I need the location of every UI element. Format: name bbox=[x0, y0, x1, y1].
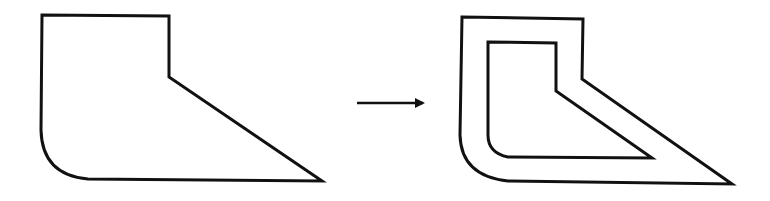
result-shape-inner-outline bbox=[488, 42, 652, 158]
source-shape-outline bbox=[41, 15, 322, 181]
diagram-canvas bbox=[0, 0, 770, 201]
